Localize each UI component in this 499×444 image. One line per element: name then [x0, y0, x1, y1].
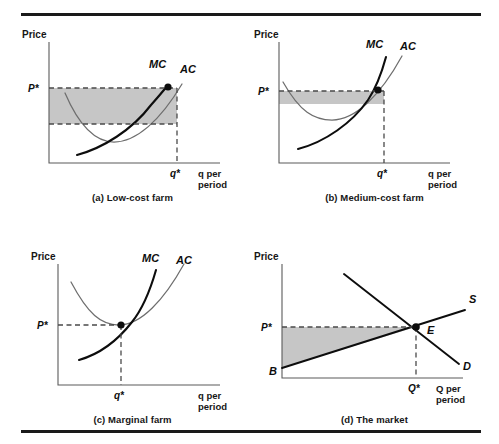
- demand-curve: [344, 274, 459, 364]
- axes: [282, 264, 463, 378]
- mc-curve-label: MC: [366, 38, 384, 50]
- y-axis-label: Price: [254, 251, 279, 262]
- price-tick-label: P*: [261, 322, 273, 333]
- quantity-tick-label: Q*: [408, 383, 421, 394]
- x-axis-label-line2: period: [198, 179, 227, 190]
- output-point: [117, 321, 124, 328]
- output-point: [164, 83, 171, 90]
- x-axis-label-line2: period: [436, 394, 465, 405]
- x-axis-label-line1: q per: [198, 390, 222, 401]
- panel-d-caption: (d) The market: [250, 414, 499, 425]
- panel-c-caption: (c) Marginal farm: [8, 414, 257, 425]
- quantity-tick-label: q*: [377, 168, 388, 179]
- price-tick-label: P*: [28, 83, 40, 94]
- price-tick-label: P*: [258, 86, 270, 97]
- x-axis-label-line1: q per: [428, 168, 452, 179]
- mc-curve-label: MC: [142, 252, 160, 264]
- supply-curve-label: S: [469, 293, 477, 305]
- x-axis-label-line2: period: [198, 401, 227, 412]
- ac-curve-label: AC: [175, 254, 193, 266]
- price-tick-label: P*: [37, 320, 49, 331]
- y-axis-label: Price: [22, 29, 47, 40]
- x-axis-label-line1: q per: [198, 168, 222, 179]
- output-point: [374, 86, 381, 93]
- x-axis-label-line1: Q per: [436, 383, 461, 394]
- demand-curve-label: D: [463, 360, 471, 372]
- equilibrium-point: [412, 323, 420, 331]
- y-axis-label: Price: [254, 29, 279, 40]
- equilibrium-label: E: [427, 324, 435, 336]
- y-axis-label: Price: [31, 251, 56, 262]
- supply-intercept-label: B: [269, 365, 277, 377]
- ac-curve: [71, 264, 184, 325]
- ac-curve-label: AC: [399, 40, 417, 52]
- axes: [58, 264, 220, 385]
- panel-b-caption: (b) Medium-cost farm: [250, 192, 499, 203]
- mc-curve-label: MC: [149, 58, 167, 70]
- ac-curve-label: AC: [179, 63, 197, 75]
- quantity-tick-label: q*: [170, 168, 181, 179]
- quantity-tick-label: q*: [114, 390, 125, 401]
- figure-container: Price q per period P* q* MC AC (a) Low-c…: [0, 0, 499, 444]
- x-axis-label-line2: period: [428, 179, 457, 190]
- panel-a-caption: (a) Low-cost farm: [8, 192, 257, 203]
- top-rule: [21, 13, 481, 16]
- profit-rectangle: [49, 88, 177, 124]
